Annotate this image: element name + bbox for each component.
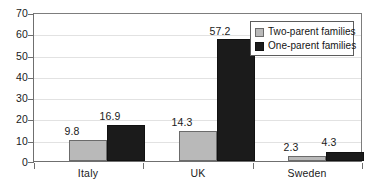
x-tick-italy-uk — [143, 163, 144, 169]
bar-chart: 70 60 50 40 30 20 10 0 — [0, 0, 376, 187]
y-axis-label-50: 50 — [4, 51, 28, 62]
y-axis-label-20: 20 — [4, 114, 28, 125]
y-tick-10 — [28, 142, 34, 143]
y-tick-20 — [28, 120, 34, 121]
x-tick-left-edge — [34, 163, 35, 169]
bar-value-sweden-two-parent: 2.3 — [272, 142, 310, 153]
x-tick-uk-sweden — [253, 163, 254, 169]
x-tick-right-edge — [362, 163, 363, 169]
y-tick-70 — [28, 14, 34, 15]
legend-label-one-parent: One-parent families — [268, 41, 356, 51]
bar-sweden-one-parent — [326, 152, 364, 161]
y-axis-label-10: 10 — [4, 136, 28, 147]
y-axis-label-60: 60 — [4, 29, 28, 40]
x-axis-label-uk: UK — [162, 168, 234, 179]
bar-value-uk-two-parent: 14.3 — [163, 117, 201, 128]
x-axis-label-sweden: Sweden — [271, 168, 343, 179]
legend-label-two-parent: Two-parent families — [268, 27, 356, 37]
y-axis-label-40: 40 — [4, 72, 28, 83]
legend-swatch-icon-one-parent — [255, 42, 264, 51]
gridline-30 — [34, 99, 361, 100]
y-tick-60 — [28, 35, 34, 36]
bar-value-italy-one-parent: 16.9 — [91, 111, 129, 122]
x-axis-label-italy: Italy — [52, 168, 124, 179]
bar-uk-one-parent — [217, 39, 255, 161]
y-axis-label-70: 70 — [4, 8, 28, 19]
chart-legend: Two-parent families One-parent families — [250, 21, 354, 56]
bar-value-sweden-one-parent: 4.3 — [310, 137, 348, 148]
legend-item-one-parent: One-parent families — [255, 39, 349, 53]
legend-swatch-icon-two-parent — [255, 28, 264, 37]
legend-item-two-parent: Two-parent families — [255, 25, 349, 39]
bar-value-uk-one-parent: 57.2 — [201, 26, 239, 37]
y-axis-labels: 70 60 50 40 30 20 10 0 — [0, 13, 28, 162]
gridline-50 — [34, 57, 361, 58]
y-axis-label-30: 30 — [4, 93, 28, 104]
y-tick-40 — [28, 78, 34, 79]
bar-italy-two-parent — [69, 140, 107, 161]
y-tick-30 — [28, 99, 34, 100]
y-tick-50 — [28, 57, 34, 58]
y-axis-label-0: 0 — [4, 157, 28, 168]
gridline-40 — [34, 78, 361, 79]
bar-uk-two-parent — [179, 131, 217, 162]
bar-value-italy-two-parent: 9.8 — [53, 126, 91, 137]
bar-sweden-two-parent — [288, 156, 326, 161]
bar-italy-one-parent — [107, 125, 145, 161]
